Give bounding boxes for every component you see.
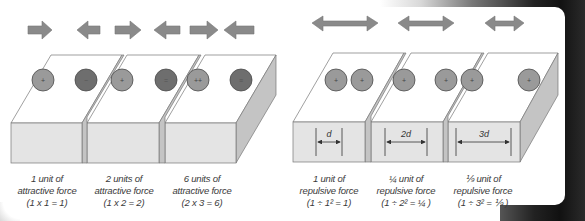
double-arrow-short-icon: [485, 16, 524, 31]
positive-charge-icon: +: [393, 69, 415, 91]
svg-text:=: =: [164, 77, 168, 84]
double-arrow-medium-icon: [398, 16, 454, 31]
positive-charge-icon: +: [111, 69, 133, 91]
positive-charge-icon: +: [435, 69, 457, 91]
double-positive-charge-icon: ++: [187, 69, 209, 91]
attractive-arrows: [28, 21, 254, 39]
triple-negative-charge-icon: ≡: [230, 69, 252, 91]
positive-charge-icon: +: [325, 69, 347, 91]
positive-charge-icon: +: [518, 69, 540, 91]
repulsive-arrows: [312, 16, 524, 31]
positive-charge-icon: +: [351, 69, 373, 91]
left-arrow-icon: [77, 21, 100, 39]
svg-text:≡: ≡: [239, 77, 243, 84]
svg-text:+: +: [444, 77, 448, 84]
distance-label-3d: 3d: [469, 129, 499, 139]
svg-text:++: ++: [194, 77, 202, 84]
svg-text:+: +: [120, 77, 124, 84]
svg-text:+: +: [402, 77, 406, 84]
positive-charge-icon: +: [32, 69, 54, 91]
distance-label-d: d: [314, 129, 344, 139]
svg-text:+: +: [41, 77, 45, 84]
svg-text:−: −: [84, 77, 88, 84]
distance-label-2d: 2d: [391, 129, 421, 139]
repulsive-caption-3: ⅑ unit of repulsive force (1 ÷ 3² = ⅑ ): [428, 173, 538, 209]
right-arrow-icon: [28, 21, 52, 39]
left-arrow-icon: [224, 21, 254, 39]
right-arrow-icon: [115, 21, 141, 39]
double-negative-charge-icon: =: [155, 69, 177, 91]
svg-text:+: +: [527, 77, 531, 84]
svg-text:+: +: [470, 77, 474, 84]
attractive-caption-3: 6 units of attractive force (2 x 3 = 6): [147, 173, 257, 209]
negative-charge-icon: −: [75, 69, 97, 91]
double-arrow-long-icon: [312, 16, 378, 31]
positive-charge-icon: +: [461, 69, 483, 91]
left-arrow-icon: [154, 21, 180, 39]
right-arrow-icon: [190, 21, 218, 39]
svg-text:+: +: [360, 77, 364, 84]
svg-text:+: +: [334, 77, 338, 84]
